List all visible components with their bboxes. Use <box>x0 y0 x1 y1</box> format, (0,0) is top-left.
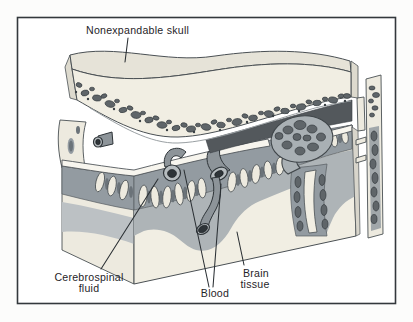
label-nonexpandable-skull: Nonexpandable skull <box>86 24 189 36</box>
skull-cross-section-figure: Nonexpandable skull Cerebrospinal fluid … <box>0 0 413 322</box>
figure-page: Nonexpandable skull Cerebrospinal fluid … <box>0 0 413 322</box>
label-blood: Blood <box>201 287 229 299</box>
label-brain-tissue-line2: tissue <box>240 278 269 290</box>
label-cerebrospinal-fluid-line2: fluid <box>79 282 100 294</box>
interhemispheric-fissure <box>291 164 328 236</box>
skull-right-edge <box>351 61 358 98</box>
